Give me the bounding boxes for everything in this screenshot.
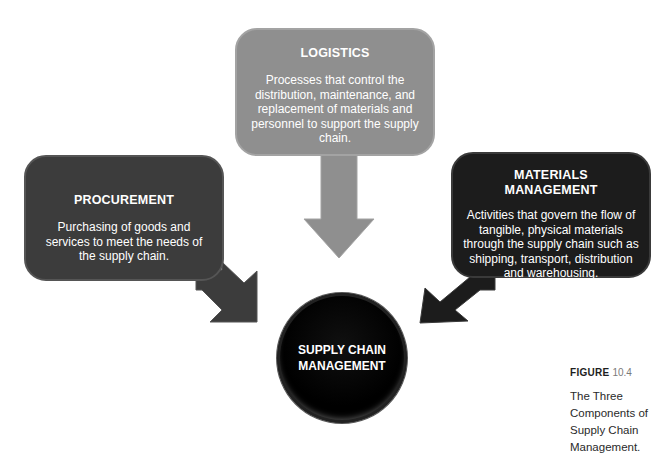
supply-chain-management-hub: SUPPLY CHAIN MANAGEMENT <box>277 293 407 423</box>
figure-caption: FIGURE 10.4 The Three Components of Supp… <box>570 367 672 456</box>
procurement-box: PROCUREMENT Purchasing of goods and serv… <box>24 155 224 281</box>
logistics-box: LOGISTICS Processes that control the dis… <box>235 28 435 156</box>
logistics-title: LOGISTICS <box>249 46 421 61</box>
materials-management-box: MATERIALS MANAGEMENT Activities that gov… <box>451 152 651 278</box>
procurement-title: PROCUREMENT <box>36 193 212 208</box>
figure-caption-text: The Three Components of Supply Chain Man… <box>570 388 672 456</box>
materials-management-description: Activities that govern the flow of tangi… <box>461 208 641 281</box>
logistics-description: Processes that control the distribution,… <box>249 73 421 146</box>
figure-label: FIGURE <box>570 367 610 378</box>
materials-title-line2: MANAGEMENT <box>461 183 641 198</box>
hub-label-line1: SUPPLY CHAIN <box>298 342 386 358</box>
figure-num: 10.4 <box>612 367 631 378</box>
hub-label-line2: MANAGEMENT <box>298 358 385 374</box>
procurement-description: Purchasing of goods and services to meet… <box>36 220 212 264</box>
materials-management-title: MATERIALS MANAGEMENT <box>461 168 641 198</box>
figure-number: FIGURE 10.4 <box>570 367 672 379</box>
logistics-arrow-icon <box>304 152 374 258</box>
materials-title-line1: MATERIALS <box>461 168 641 183</box>
